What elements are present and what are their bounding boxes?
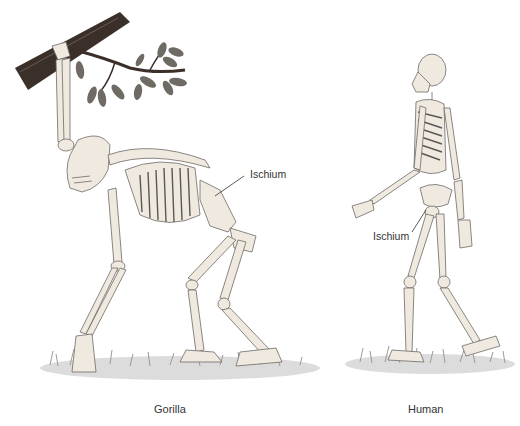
- grass-icon: [345, 346, 515, 374]
- gorilla-hind-limbs: [180, 236, 282, 366]
- human-skull: [412, 54, 446, 92]
- illustration: [0, 0, 520, 426]
- caption-gorilla: Gorilla: [154, 403, 186, 415]
- human-illustration: [345, 54, 515, 374]
- ischium-label-gorilla: Ischium: [250, 168, 286, 180]
- skeleton-comparison-figure: Ischium Ischium Gorilla Human: [0, 0, 520, 426]
- gorilla-ribcage: [108, 149, 210, 223]
- ischium-leader-line-gorilla: [215, 176, 244, 196]
- human-pelvis: [420, 184, 452, 218]
- human-arms: [352, 106, 472, 248]
- gorilla-front-limb: [72, 188, 126, 372]
- ischium-label-human: Ischium: [373, 230, 409, 242]
- leaves-icon: [74, 41, 187, 107]
- gorilla-illustration: [15, 12, 320, 380]
- caption-human: Human: [408, 403, 443, 415]
